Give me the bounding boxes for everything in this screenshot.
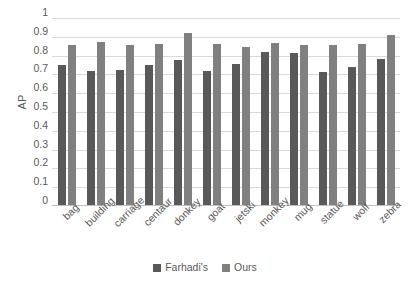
bar — [174, 60, 182, 206]
legend-label: Ours — [234, 262, 257, 273]
legend-item[interactable]: Farhadi's — [153, 262, 208, 273]
y-axis-tick-label: 0.1 — [18, 176, 48, 187]
bar — [68, 45, 76, 206]
bar-group — [313, 18, 342, 206]
bar-group — [255, 18, 284, 206]
legend-label: Farhadi's — [165, 262, 208, 273]
x-axis-label-cell: donkey — [168, 206, 197, 256]
bar — [145, 65, 153, 206]
bar — [329, 45, 337, 206]
chart-legend: Farhadi'sOurs — [0, 262, 410, 273]
bar — [348, 67, 356, 206]
x-axis-label-cell: monkey — [255, 206, 284, 256]
bar — [213, 44, 221, 206]
bar — [203, 71, 211, 206]
y-axis-tick-label: 0.6 — [18, 82, 48, 93]
y-axis-tick-label: 1 — [18, 7, 48, 18]
x-axis-label-cell: wolf — [342, 206, 371, 256]
y-axis-tick-label: 0.4 — [18, 119, 48, 130]
x-axis-label-cell: zebra — [371, 206, 400, 256]
y-axis-tick-label: 0.3 — [18, 138, 48, 149]
x-axis-label-cell: goat — [197, 206, 226, 256]
y-axis-tick-label: 0.2 — [18, 157, 48, 168]
x-axis-label-cell: bag — [52, 206, 81, 256]
bar — [261, 52, 269, 206]
y-axis-tick-label: 0.9 — [18, 25, 48, 36]
bar — [184, 33, 192, 206]
bar-group — [371, 18, 400, 206]
x-axis-tick-labels: bagbuildingcarriagecentaurdonkeygoatjets… — [52, 206, 400, 256]
y-axis-tick-label: 0.8 — [18, 44, 48, 55]
x-axis-label-cell: centaur — [139, 206, 168, 256]
bar — [300, 45, 308, 206]
bar — [319, 72, 327, 206]
bar-group — [139, 18, 168, 206]
bar — [242, 47, 250, 206]
bar — [290, 53, 298, 206]
bar — [358, 44, 366, 206]
plot-area — [52, 18, 400, 206]
legend-item[interactable]: Ours — [222, 262, 257, 273]
bar-group — [52, 18, 81, 206]
bar — [232, 64, 240, 206]
bar — [271, 43, 279, 206]
bar — [126, 45, 134, 206]
legend-swatch-icon — [153, 264, 161, 272]
bar — [155, 44, 163, 206]
y-axis-tick-label: 0 — [18, 195, 48, 206]
bar — [116, 70, 124, 206]
bar-group — [226, 18, 255, 206]
y-axis-tick-label: 0.7 — [18, 63, 48, 74]
bar-groups — [52, 18, 400, 206]
bar — [377, 59, 385, 206]
x-axis-label-cell: building — [81, 206, 110, 256]
x-axis-label-cell: jetski — [226, 206, 255, 256]
bar-group — [110, 18, 139, 206]
y-axis-tick-label: 0.5 — [18, 101, 48, 112]
bar-group — [284, 18, 313, 206]
bar — [58, 65, 66, 206]
bar — [87, 71, 95, 206]
bar-group — [197, 18, 226, 206]
bar-chart: AP 10.90.80.70.60.50.40.30.20.10 bagbuil… — [0, 0, 410, 293]
y-axis-tick-labels: 10.90.80.70.60.50.40.30.20.10 — [18, 12, 48, 206]
bar-group — [81, 18, 110, 206]
bar-group — [342, 18, 371, 206]
x-axis-label-cell: mug — [284, 206, 313, 256]
x-axis-label-cell: carriage — [110, 206, 139, 256]
bar-group — [168, 18, 197, 206]
bar — [97, 42, 105, 206]
x-axis-label-cell: statue — [313, 206, 342, 256]
bar — [387, 35, 395, 206]
legend-swatch-icon — [222, 264, 230, 272]
